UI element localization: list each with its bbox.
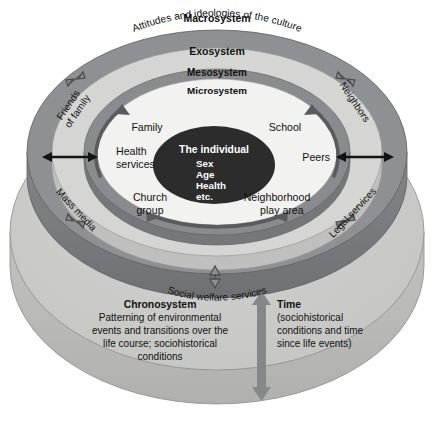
- label-mesosystem: Mesosystem: [187, 67, 247, 78]
- time-desc-line-1: (sociohistorical: [277, 312, 343, 323]
- ecological-systems-diagram: Macrosystem Attitudes and ideologies of …: [0, 0, 434, 438]
- label-individual-age: Age: [196, 169, 215, 180]
- svg-text:group: group: [136, 204, 163, 216]
- label-individual-health: Health: [196, 180, 226, 191]
- svg-text:Church: Church: [133, 191, 167, 203]
- label-microsystem: Microsystem: [187, 85, 247, 96]
- svg-text:Health: Health: [116, 145, 147, 157]
- label-exosystem: Exosystem: [189, 45, 244, 57]
- label-time: Time: [277, 299, 301, 310]
- label-peers: Peers: [302, 151, 330, 163]
- time-desc-line-2: conditions and time: [277, 325, 364, 336]
- label-chronosystem: Chronosystem: [124, 299, 197, 310]
- chronosystem-desc-line-3: life course; sociohistorical: [103, 338, 217, 349]
- diagram-canvas: Macrosystem Attitudes and ideologies of …: [0, 0, 434, 438]
- chronosystem-desc-line-4: conditions: [137, 351, 182, 362]
- svg-text:Neighborhood: Neighborhood: [244, 191, 311, 203]
- svg-text:play area: play area: [260, 204, 304, 216]
- label-family: Family: [131, 121, 163, 133]
- time-arrow-shaft: [257, 300, 266, 392]
- time-desc-line-3: since life events): [277, 338, 351, 349]
- chronosystem-desc-line-1: Patterning of environmental: [99, 312, 221, 323]
- label-individual-etc: etc.: [196, 191, 213, 202]
- label-church-group: Church group: [133, 191, 167, 216]
- label-the-individual: The individual: [179, 144, 249, 155]
- chronosystem-desc-line-2: events and transitions over the: [92, 325, 229, 336]
- label-school: School: [269, 121, 301, 133]
- svg-text:services: services: [116, 158, 155, 170]
- label-individual-sex: Sex: [196, 158, 214, 169]
